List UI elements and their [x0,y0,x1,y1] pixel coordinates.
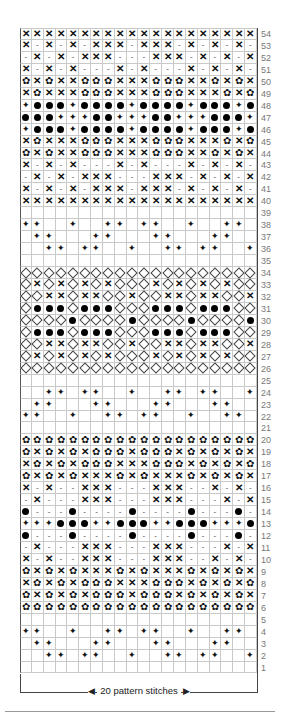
star-icon: ✦ [140,627,148,636]
chart-cell [103,614,115,626]
open-diamond-icon [186,339,197,350]
chart-cell: ✿ [127,434,139,446]
chart-cell [79,207,91,219]
cross-icon: ✕ [187,160,195,170]
chart-cell: ✿ [162,458,174,470]
flower-icon: ✿ [152,435,160,445]
chart-row: ✦✦✦✦✦✦✦✦✦✦13 [20,518,257,530]
chart-cell: ✦ [210,638,222,650]
star-icon: ✦ [246,113,254,122]
chart-cell: ✿ [245,434,257,446]
chart-cell: ✿ [91,446,103,458]
open-diamond-icon [126,267,137,278]
dash-icon: - [119,496,122,504]
chart-cell: ✿ [138,446,150,458]
chart-cell: ✿ [103,136,115,148]
chart-cell [103,650,115,662]
flower-icon: ✿ [223,578,231,588]
chart-cell: ✕ [186,578,198,590]
chart-cell [91,351,103,363]
chart-cell [127,363,139,375]
chart-cell [103,255,115,267]
star-icon: ✦ [164,651,172,660]
chart-cell [186,303,198,315]
flower-icon: ✿ [164,88,172,98]
chart-row: 26 [20,363,257,375]
chart-cell: - [127,482,139,494]
chart-cell: ✕ [91,28,103,40]
cross-icon: ✕ [223,29,231,39]
chart-cell: ✕ [245,148,257,160]
chart-cell [32,267,44,279]
chart-cell: ✿ [91,136,103,148]
open-diamond-icon [115,303,126,314]
open-diamond-icon [186,279,197,290]
star-icon: ✦ [211,232,219,241]
chart-cell [245,638,257,650]
chart-cell: ✕ [67,88,79,100]
cross-icon: ✕ [164,172,172,182]
star-icon: ✦ [223,411,231,420]
chart-cell [32,243,44,255]
chart-cell [20,614,32,626]
flower-icon: ✿ [140,447,148,457]
cross-icon: ✕ [116,160,124,170]
chart-cell: ✕ [56,76,68,88]
chart-cell: - [221,64,233,76]
chart-cell: - [221,506,233,518]
star-icon: ✦ [140,220,148,229]
cross-icon: ✕ [57,136,65,146]
cross-icon: ✕ [199,172,207,182]
chart-cell: ✕ [150,482,162,494]
chart-cell [103,124,115,136]
cross-icon: ✕ [104,351,112,361]
chart-cell [210,351,222,363]
chart-cell: ✦ [67,411,79,423]
chart-cell: ✕ [127,148,139,160]
chart-cell: ✿ [115,470,127,482]
chart-cell: ✕ [103,40,115,52]
chart-cell: ✦ [44,399,56,411]
chart-cell: ✕ [233,482,245,494]
chart-cell: - [210,530,222,542]
chart-cell: ✕ [221,470,233,482]
chart-cell [44,614,56,626]
cross-icon: ✕ [140,196,148,206]
chart-row: ✕✕✕✕✕✕✕✕27 [20,351,257,363]
chart-cell: ✕ [138,578,150,590]
cross-icon: ✕ [104,196,112,206]
chart-cell: ✦ [245,112,257,124]
chart-cell: - [115,530,127,542]
chart-cell [245,327,257,339]
cross-icon: ✕ [235,554,243,564]
flower-icon: ✿ [152,447,160,457]
row-number-label: 33 [261,279,271,291]
dash-icon: - [225,508,228,516]
chart-cell: ✿ [20,446,32,458]
dash-icon: - [178,532,181,540]
chart-cell: ✿ [245,602,257,614]
chart-cell: ✕ [115,183,127,195]
chart-cell: ✿ [150,458,162,470]
flower-icon: ✿ [104,148,112,158]
chart-cell: - [44,542,56,554]
chart-cell: ✕ [79,339,91,351]
dash-icon: - [249,532,252,540]
cross-icon: ✕ [246,495,254,505]
chart-row: 30 [20,315,257,327]
chart-cell: - [138,171,150,183]
chart-cell [32,327,44,339]
chart-cell: ✕ [245,590,257,602]
cross-icon: ✕ [199,52,207,62]
chart-cell [115,243,127,255]
star-icon: ✦ [57,651,65,660]
dot-icon [93,114,100,121]
chart-cell: ✕ [44,339,56,351]
cross-icon: ✕ [45,554,53,564]
chart-cell [174,255,186,267]
open-diamond-icon [91,362,102,373]
chart-cell: ✕ [210,159,222,171]
chart-cell: ✦ [210,387,222,399]
chart-cell: - [44,494,56,506]
chart-cell: ✦ [91,231,103,243]
